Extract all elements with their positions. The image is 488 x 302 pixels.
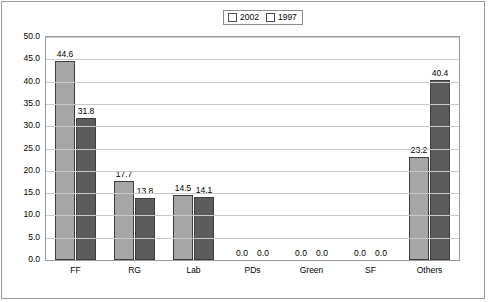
gridline [46,126,459,127]
gridline [46,215,459,216]
bar-value-label: 0.0 [247,249,279,258]
bar-Lab-1997 [194,197,214,260]
chart-legend: 2002 1997 [223,10,303,25]
gridline [46,82,459,83]
x-axis-tick-label: Green [282,266,341,275]
y-axis-tick-label: 15.0 [0,188,40,197]
bar-Lab-2002 [173,195,193,260]
bar-FF-2002 [55,61,75,260]
legend-label-2002: 2002 [240,13,259,22]
bar-value-label: 0.0 [365,249,397,258]
x-axis-tick-label: RG [105,266,164,275]
x-axis-tick-label: FF [46,266,105,275]
y-axis-tick-label: 5.0 [0,233,40,242]
y-axis-tick-label: 30.0 [0,121,40,130]
legend-swatch-1997 [266,13,275,22]
y-axis-tick-label: 20.0 [0,166,40,175]
bar-value-label: 40.4 [424,69,456,78]
y-axis-tick-label: 25.0 [0,144,40,153]
gridline [46,37,459,38]
gridline [46,149,459,150]
bar-value-label: 44.6 [49,50,81,59]
gridline [46,104,459,105]
y-axis-tick-label: 10.0 [0,210,40,219]
x-axis-tick-label: Others [400,266,459,275]
x-axis-tick-label: Lab [164,266,223,275]
legend-item-2002: 2002 [228,13,259,22]
gridline [46,171,459,172]
bar-RG-1997 [135,198,155,260]
bar-value-label: 31.8 [70,107,102,116]
y-axis-tick-label: 0.0 [0,255,40,264]
y-axis-tick-label: 50.0 [0,32,40,41]
bar-FF-1997 [76,118,96,260]
bar-Others-2002 [409,157,429,260]
bar-chart: 2002 1997 44.631.817.713.814.514.10.00.0… [0,0,488,302]
x-axis-tick-label: SF [341,266,400,275]
y-axis-tick-label: 35.0 [0,99,40,108]
bar-value-label: 13.8 [129,187,161,196]
gridline [46,59,459,60]
gridline [46,238,459,239]
legend-swatch-2002 [228,13,237,22]
bar-value-label: 0.0 [306,249,338,258]
gridline [46,193,459,194]
legend-label-1997: 1997 [278,13,297,22]
plot-area: 44.631.817.713.814.514.10.00.00.00.00.00… [45,36,460,261]
x-axis-tick-label: PDs [223,266,282,275]
legend-item-1997: 1997 [266,13,297,22]
y-axis-tick-label: 45.0 [0,54,40,63]
y-axis-tick-label: 40.0 [0,77,40,86]
